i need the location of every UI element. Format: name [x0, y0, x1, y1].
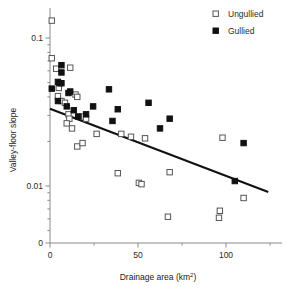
tick-marks — [46, 38, 271, 248]
axes — [50, 8, 282, 243]
data-point — [139, 181, 144, 186]
data-point — [94, 131, 99, 136]
data-point — [59, 70, 64, 75]
series-gullied-points — [49, 62, 246, 183]
data-point — [75, 144, 80, 149]
data-point — [75, 114, 80, 119]
x-tick-label: 0 — [48, 250, 53, 260]
data-point — [232, 178, 237, 183]
data-point — [165, 214, 170, 219]
data-point — [142, 136, 147, 141]
data-point — [167, 169, 172, 174]
data-point — [68, 65, 73, 70]
data-point — [68, 89, 73, 94]
data-point — [49, 18, 54, 23]
data-point — [59, 62, 64, 67]
data-point — [64, 121, 69, 126]
data-point — [167, 116, 172, 121]
y-axis-title: Valley-floor slope — [8, 107, 18, 172]
x-axis-title: Drainage area (km2) — [120, 272, 197, 282]
data-point — [241, 140, 246, 145]
data-point — [115, 107, 120, 112]
y-tick-label: 0.01 — [26, 181, 43, 191]
legend-label-ungullied: Ungullied — [228, 9, 264, 19]
data-point — [106, 87, 111, 92]
y-tick-label: 0 — [38, 238, 43, 248]
data-point — [83, 112, 88, 117]
x-tick-label: 50 — [133, 250, 143, 260]
data-point — [59, 80, 64, 85]
data-point — [55, 98, 60, 103]
legend-marker-gullied — [213, 28, 218, 33]
data-point — [49, 86, 54, 91]
legend: UngulliedGullied — [213, 9, 264, 36]
scatter-chart: 0.10.010050100 UngulliedGullied Drainage… — [0, 0, 287, 292]
data-point — [71, 108, 76, 113]
legend-marker-ungullied — [213, 11, 218, 16]
data-point — [110, 118, 115, 123]
data-point — [64, 104, 69, 109]
data-point — [220, 135, 225, 140]
data-point — [128, 134, 133, 139]
data-point — [80, 140, 85, 145]
data-point — [115, 171, 120, 176]
plot-area: 0.10.010050100 UngulliedGullied Drainage… — [0, 0, 287, 292]
data-point — [53, 66, 58, 71]
data-point — [69, 126, 74, 131]
data-point — [49, 56, 54, 61]
x-tick-label: 100 — [219, 250, 233, 260]
data-point — [216, 215, 221, 220]
axis-titles: Drainage area (km2)Valley-floor slope — [8, 107, 196, 282]
data-point — [75, 94, 80, 99]
data-point — [90, 104, 95, 109]
y-tick-label: 0.1 — [31, 33, 43, 43]
data-point — [119, 131, 124, 136]
data-point — [241, 195, 246, 200]
data-point — [217, 208, 222, 213]
legend-label-gullied: Gullied — [228, 26, 255, 36]
data-point — [157, 126, 162, 131]
data-point — [146, 100, 151, 105]
